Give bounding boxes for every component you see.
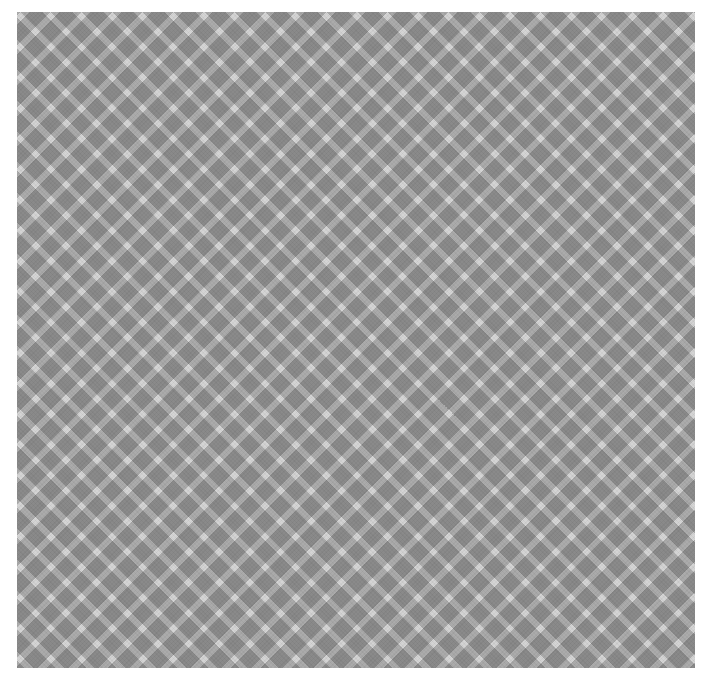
y-axis-tick-labels: [0, 512, 14, 624]
screenshot-canvas: [0, 0, 706, 680]
plaid-pattern-image: [17, 12, 695, 668]
diagonal-stripes-descending: [17, 12, 695, 668]
